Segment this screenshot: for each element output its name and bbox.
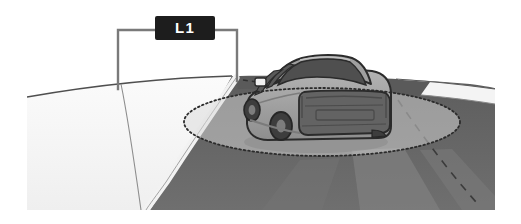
scene-illustration: L1 (0, 0, 521, 224)
illustration-root: L1 (0, 0, 521, 224)
callout-badge[interactable]: L1 (155, 16, 215, 40)
callout-badge-label: L1 (175, 19, 195, 36)
